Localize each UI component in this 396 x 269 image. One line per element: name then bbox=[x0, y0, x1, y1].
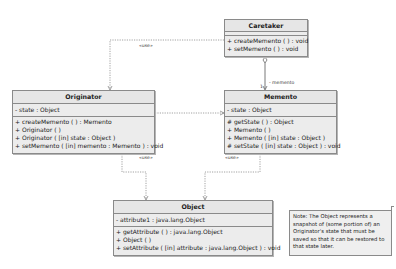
attribute: - state : Object bbox=[15, 104, 152, 116]
note-line: snapshot of (some portion of) an bbox=[293, 221, 388, 229]
operations-compartment: + createMemento ( ) : Memento + Originat… bbox=[13, 117, 154, 150]
class-name-object: Object bbox=[114, 201, 272, 214]
class-name-originator: Originator bbox=[13, 91, 154, 104]
attribute: - attribute1 : java.lang.Object bbox=[116, 214, 270, 226]
operation: + setAttribute ( [in] attribute : java.l… bbox=[116, 244, 270, 252]
operation: # getState ( ) : Object bbox=[227, 118, 334, 126]
operation: + getAttribute ( ) : java.lang.Object bbox=[116, 228, 270, 236]
stereotype-label-memento-object: «use» bbox=[225, 155, 239, 160]
operations-compartment: + getAttribute ( ) : java.lang.Object + … bbox=[114, 227, 272, 252]
note[interactable]: Note: The Object represents a snapshot o… bbox=[289, 210, 392, 256]
note-corner-icon bbox=[391, 206, 394, 212]
class-originator[interactable]: Originator - state : Object + createMeme… bbox=[12, 90, 155, 154]
dependency-originator-object[interactable] bbox=[122, 154, 146, 199]
aggregation-diamond-icon bbox=[263, 57, 267, 63]
operation: + Originator ( ) bbox=[15, 126, 152, 134]
class-memento[interactable]: Memento - state : Object # getState ( ) … bbox=[224, 90, 337, 154]
multiplicity-label: 1 bbox=[260, 84, 263, 89]
operation: + setMemento ( [in] memento : Memento ) … bbox=[15, 142, 152, 150]
operations-compartment: + createMemento ( ) : void + setMemento … bbox=[225, 36, 307, 53]
class-caretaker[interactable]: Caretaker + createMemento ( ) : void + s… bbox=[224, 19, 308, 57]
role-label-memento: - memento bbox=[269, 80, 294, 85]
operation: + setMemento ( ) : void bbox=[227, 45, 305, 53]
operation: + Memento ( [in] state : Object ) bbox=[227, 134, 334, 142]
stereotype-label-caretaker-originator: «use» bbox=[139, 43, 153, 48]
note-line: Originator's state that must be bbox=[293, 228, 388, 236]
operation: + Memento ( ) bbox=[227, 126, 334, 134]
class-name-caretaker: Caretaker bbox=[225, 20, 307, 32]
note-line: Note: The Object represents a bbox=[293, 213, 388, 221]
note-line: saved so that it can be restored to bbox=[293, 236, 388, 244]
class-name-memento: Memento bbox=[225, 91, 336, 104]
attribute: - state : Object bbox=[227, 104, 334, 116]
operation: + createMemento ( ) : void bbox=[227, 37, 305, 45]
attributes-compartment: - state : Object bbox=[225, 104, 336, 117]
operation: + Originator ( [in] state : Object ) bbox=[15, 134, 152, 142]
attributes-compartment: - state : Object bbox=[13, 104, 154, 117]
operation: # setState ( [in] state : Object ) : voi… bbox=[227, 142, 334, 150]
dependency-caretaker-originator[interactable] bbox=[110, 40, 224, 89]
operation: + createMemento ( ) : Memento bbox=[15, 118, 152, 126]
class-object[interactable]: Object - attribute1 : java.lang.Object +… bbox=[113, 200, 273, 256]
operation: + Object ( ) bbox=[116, 236, 270, 244]
stereotype-label-originator-object: «use» bbox=[139, 155, 153, 160]
dependency-memento-object[interactable] bbox=[205, 154, 260, 199]
operations-compartment: # getState ( ) : Object + Memento ( ) + … bbox=[225, 117, 336, 150]
note-line: that state later. bbox=[293, 243, 388, 251]
attributes-compartment: - attribute1 : java.lang.Object bbox=[114, 214, 272, 227]
